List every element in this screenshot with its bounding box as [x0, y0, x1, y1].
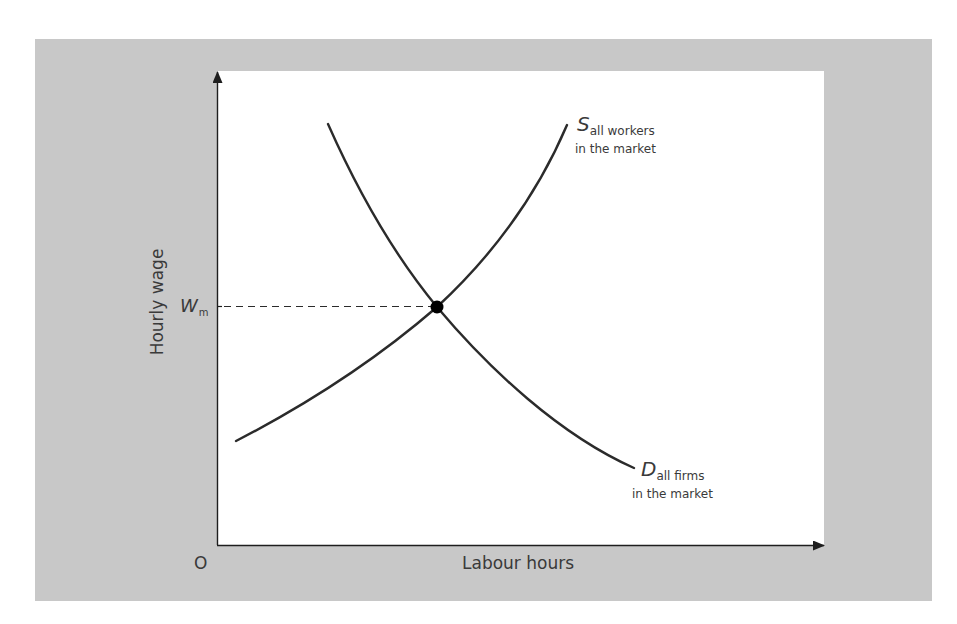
demand-subscript: all firms	[656, 469, 704, 483]
equilibrium-point	[431, 301, 444, 314]
supply-symbol: S	[577, 112, 590, 136]
y-axis-label: Hourly wage	[149, 249, 166, 356]
x-axis-label: Labour hours	[462, 555, 574, 572]
origin-label: O	[194, 555, 207, 572]
market-wage-subscript: m	[199, 307, 209, 318]
market-wage-label: Wm	[180, 297, 209, 318]
market-wage-symbol: W	[180, 295, 198, 316]
demand-label-line2: in the market	[632, 488, 713, 500]
demand-curve-label: Dall firms in the market	[641, 459, 713, 500]
supply-curve-label: Sall workers in the market	[577, 114, 656, 155]
supply-subscript: all workers	[590, 124, 655, 138]
supply-curve	[236, 125, 567, 441]
supply-label-line2: in the market	[575, 143, 656, 155]
labour-market-diagram	[0, 0, 957, 624]
demand-symbol: D	[641, 457, 656, 481]
demand-curve	[328, 124, 634, 468]
